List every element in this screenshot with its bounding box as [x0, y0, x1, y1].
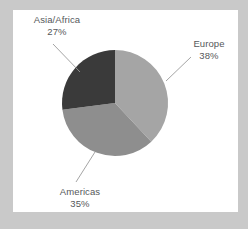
pie-label-americas-percent: 35% — [40, 198, 120, 210]
pie-label-asia-africa: Asia/Africa 27% — [18, 14, 96, 37]
leader-line-americas — [76, 152, 95, 182]
pie-label-europe: Europe 38% — [180, 38, 238, 61]
pie-label-americas: Americas 35% — [40, 186, 120, 209]
pie-label-europe-name: Europe — [180, 38, 238, 50]
pie-label-europe-percent: 38% — [180, 50, 238, 62]
pie-label-americas-name: Americas — [40, 186, 120, 198]
pie-label-asia-africa-percent: 27% — [18, 26, 96, 38]
leader-line-asia-africa — [53, 44, 80, 72]
pie-chart-figure: Asia/Africa 27% Europe 38% Americas 35% — [0, 0, 248, 229]
pie-label-asia-africa-name: Asia/Africa — [18, 14, 96, 26]
pie-slice-asia-africa[interactable] — [62, 50, 115, 110]
